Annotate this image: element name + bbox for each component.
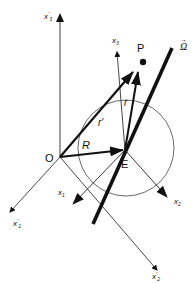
label-x1: x1: [57, 188, 65, 198]
fixed-axis-x3-prime: [56, 13, 64, 157]
fixed-axis-x2-prime: [60, 157, 157, 270]
svg-text:x'3: x'3: [43, 11, 52, 22]
label-x3: x3: [111, 36, 119, 46]
vector-R: [60, 150, 123, 157]
label-x2: x2: [173, 197, 181, 207]
rotating-frame-diagram: P O E R r' r Ω → x'3 x'1 x'2 x3 x1 x2: [0, 0, 196, 283]
body-axis-x2: [125, 150, 167, 197]
omega-arrow-icon: →: [180, 36, 187, 43]
arrowhead-icon: [56, 13, 64, 22]
point-P-label: P: [137, 42, 144, 54]
vector-r-label: r: [124, 97, 128, 108]
point-E-label: E: [121, 158, 128, 170]
label-x1-prime: x'1: [12, 218, 21, 229]
label-x3-prime: x'3: [43, 11, 52, 22]
svg-text:x2: x2: [173, 197, 181, 207]
svg-text:x'1: x'1: [12, 218, 21, 229]
vector-R-label: R: [82, 139, 90, 151]
vector-r-prime-label: r': [98, 117, 104, 128]
fixed-axis-x1-prime: [10, 157, 60, 212]
omega-axis: [93, 48, 172, 224]
svg-text:x1: x1: [57, 188, 65, 198]
body-axis-x1: [73, 150, 125, 204]
point-P-marker: [140, 59, 146, 65]
label-x2-prime: x'2: [151, 271, 160, 282]
svg-text:x'2: x'2: [151, 271, 160, 282]
svg-text:x3: x3: [111, 36, 119, 46]
point-O-label: O: [45, 152, 54, 164]
omega-label: Ω →: [180, 36, 187, 52]
